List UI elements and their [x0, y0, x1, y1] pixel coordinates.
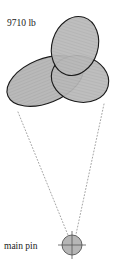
diagram-canvas: 9710 lb main pin	[0, 0, 114, 263]
crane-load-diagram: 9710 lb main pin	[0, 0, 114, 263]
load-weight-label: 9710 lb	[7, 18, 36, 28]
main-pin-label: main pin	[4, 241, 38, 251]
